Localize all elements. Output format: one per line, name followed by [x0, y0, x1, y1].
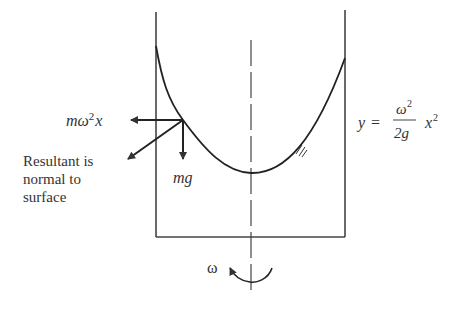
svg-text:normal to: normal to: [23, 171, 81, 187]
svg-text:2: 2: [433, 112, 438, 123]
surface-hatch: [296, 145, 307, 157]
svg-text:ω: ω: [207, 259, 218, 276]
svg-text:2g: 2g: [394, 125, 410, 141]
svg-text:surface: surface: [23, 189, 67, 205]
rotating-container-diagram: mω2x mg Resultant is normal to surface y…: [0, 0, 468, 309]
weight-label: mg: [173, 169, 193, 187]
rotation-indicator: ω: [207, 259, 272, 282]
svg-text:x: x: [424, 114, 432, 131]
surface-equation: y = ω 2 2g x 2: [356, 98, 438, 141]
resultant-label: Resultant is normal to surface: [23, 153, 94, 205]
centrifugal-force-label: mω2x: [66, 110, 102, 129]
svg-text:2: 2: [407, 98, 412, 109]
svg-text:=: =: [371, 114, 380, 131]
svg-text:y: y: [356, 114, 366, 132]
svg-text:ω: ω: [396, 101, 407, 117]
svg-text:Resultant is: Resultant is: [23, 153, 94, 169]
